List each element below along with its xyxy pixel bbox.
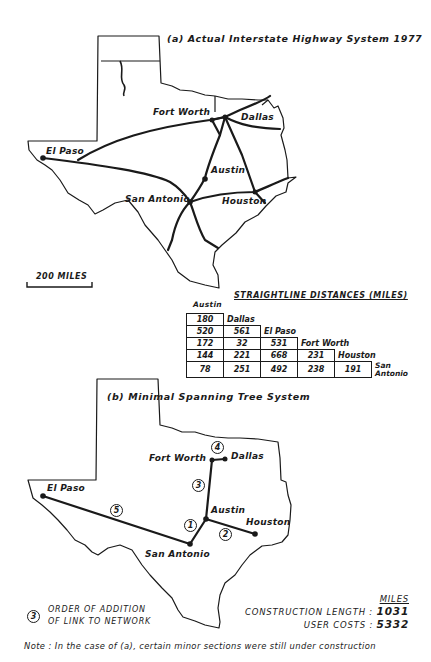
stats-unit: MILES (245, 593, 409, 605)
distance-row-el-paso: 520 561 El Paso (187, 326, 416, 338)
label-san-antonio-b: San Antonio (145, 549, 210, 559)
label-austin-a: Austin (211, 165, 245, 175)
dist-elpaso-austin: 520 (187, 326, 224, 338)
row-label-san-antonio: San Antonio (372, 362, 416, 378)
row-label-fort-worth: Fort Worth (298, 338, 416, 350)
distance-row-dallas: 180 Dallas (187, 314, 416, 326)
city-dot-dallas-b (223, 457, 228, 462)
user-costs-value: 5332 (377, 618, 409, 630)
map-b-title: (b) Minimal Spanning Tree System (107, 391, 310, 402)
label-houston-b: Houston (246, 517, 290, 527)
dist-houston-elpaso: 668 (261, 350, 298, 362)
dist-dallas-austin: 180 (187, 314, 224, 326)
legend-order-symbol: 3 (27, 610, 40, 623)
cost-stats: MILES CONSTRUCTION LENGTH : 1031 USER CO… (245, 593, 409, 631)
dist-sanantonio-elpaso: 492 (261, 362, 298, 378)
distance-matrix: 180 Dallas 520 561 El Paso 172 32 531 Fo… (186, 313, 415, 378)
label-dallas-a: Dallas (241, 112, 274, 122)
link-order-1: 1 (184, 519, 197, 532)
label-fort-worth-b: Fort Worth (149, 453, 206, 463)
legend-text: ORDER OF ADDITION OF LINK TO NETWORK (48, 604, 151, 628)
scale-bar (27, 282, 92, 287)
hwy-dallas-houston (225, 117, 255, 192)
construction-length-label: CONSTRUCTION LENGTH : (245, 607, 373, 617)
hwy-sanantonio-southeast (190, 202, 218, 248)
row-label-el-paso: El Paso (261, 326, 416, 338)
link-order-4: 4 (211, 441, 224, 454)
label-san-antonio-a: San Antonio (125, 194, 190, 204)
link-order-2: 2 (219, 528, 232, 541)
link-order-3: 3 (192, 479, 205, 492)
link-order-5: 5 (110, 504, 123, 517)
city-dot-austin-b (203, 516, 209, 522)
construction-length-value: 1031 (377, 605, 409, 617)
dist-fortworth-elpaso: 531 (261, 338, 298, 350)
dist-fortworth-dallas: 32 (224, 338, 261, 350)
dist-sanantonio-dallas: 251 (224, 362, 261, 378)
hwy-fortworth-down (212, 120, 220, 135)
city-dot-austin (202, 176, 208, 182)
legend-line-2: OF LINK TO NETWORK (48, 616, 151, 628)
dist-sanantonio-austin: 78 (187, 362, 224, 378)
city-dot-houston (253, 190, 258, 195)
hwy-dfw-austin-sanantonio (190, 117, 225, 202)
mst-link-4-fortworth-dallas (212, 459, 225, 460)
city-dot-el-paso (40, 155, 46, 161)
texas-outline-b (28, 379, 291, 628)
city-dot-san-antonio-b (187, 541, 193, 547)
dist-houston-fortworth: 231 (298, 350, 335, 362)
city-dot-houston-b (252, 531, 258, 537)
distances-title: STRAIGHTLINE DISTANCES (MILES) (234, 291, 408, 300)
city-dot-el-paso-b (40, 493, 46, 499)
scale-label: 200 MILES (36, 272, 87, 281)
legend-line-1: ORDER OF ADDITION (48, 604, 151, 616)
row-label-dallas: Dallas (224, 314, 416, 326)
label-el-paso-b: El Paso (47, 483, 85, 493)
city-dot-dallas (223, 115, 228, 120)
label-fort-worth-a: Fort Worth (153, 107, 210, 117)
label-dallas-b: Dallas (231, 451, 264, 461)
label-austin-b: Austin (211, 505, 245, 515)
distances-header-austin: Austin (193, 300, 222, 309)
distance-row-san-antonio: 78 251 492 238 191 San Antonio (187, 362, 416, 378)
panhandle-river (120, 61, 125, 96)
footnote: Note : In the case of (a), certain minor… (24, 641, 376, 651)
city-dot-fort-worth (210, 118, 215, 123)
dist-elpaso-dallas: 561 (224, 326, 261, 338)
construction-length-row: CONSTRUCTION LENGTH : 1031 (245, 605, 409, 618)
city-dot-fort-worth-b (210, 458, 215, 463)
map-a-title: (a) Actual Interstate Highway System 197… (167, 33, 422, 44)
dist-houston-austin: 144 (187, 350, 224, 362)
user-costs-row: USER COSTS : 5332 (245, 618, 409, 631)
dist-sanantonio-fortworth: 238 (298, 362, 335, 378)
dist-fortworth-austin: 172 (187, 338, 224, 350)
hwy-sanantonio-southwest (168, 202, 190, 250)
label-houston-a: Houston (222, 196, 266, 206)
distance-row-houston: 144 221 668 231 Houston (187, 350, 416, 362)
distance-row-fort-worth: 172 32 531 Fort Worth (187, 338, 416, 350)
user-costs-label: USER COSTS : (304, 620, 373, 630)
dist-sanantonio-houston: 191 (335, 362, 372, 378)
label-el-paso-a: El Paso (46, 146, 84, 156)
row-label-houston: Houston (335, 350, 416, 362)
dist-houston-dallas: 221 (224, 350, 261, 362)
hwy-elpaso-fortworth (78, 117, 225, 160)
